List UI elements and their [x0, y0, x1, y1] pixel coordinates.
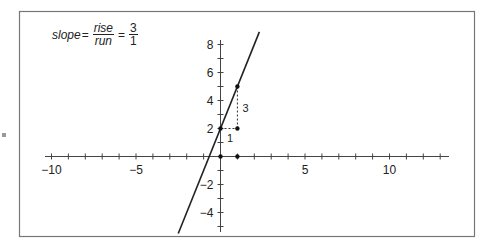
data-point	[218, 154, 222, 158]
y-tick-label: 6	[207, 66, 214, 80]
x-tick-label: 5	[302, 163, 309, 177]
data-point	[218, 126, 222, 130]
axes	[45, 40, 449, 232]
y-tick-label: −2	[200, 178, 214, 192]
formula-equals: =	[82, 28, 89, 42]
value-fraction: 3 1	[129, 22, 138, 47]
run-label: run	[94, 35, 113, 47]
run-value: 1	[129, 35, 138, 47]
tick-marks	[52, 45, 441, 227]
y-tick-label: 2	[207, 122, 214, 136]
y-tick-label: 8	[207, 38, 214, 52]
x-tick-label: −5	[129, 163, 143, 177]
data-points	[218, 84, 239, 158]
slope-formula: slope = rise run = 3 1	[52, 22, 141, 47]
slope-line	[178, 32, 259, 234]
x-tick-label: −10	[41, 163, 62, 177]
data-point	[235, 84, 239, 88]
y-tick-label: 4	[207, 94, 214, 108]
line-series	[178, 32, 259, 234]
formula-equals-2: =	[118, 28, 125, 42]
rise-over-run-fraction: rise run	[93, 22, 114, 47]
run-annotation: 1	[227, 132, 233, 144]
x-tick-label: 10	[383, 163, 397, 177]
y-tick-label: −4	[200, 206, 214, 220]
rise-annotation: 3	[242, 102, 248, 114]
data-point	[235, 154, 239, 158]
formula-lhs: slope	[52, 28, 81, 42]
data-point	[235, 126, 239, 130]
